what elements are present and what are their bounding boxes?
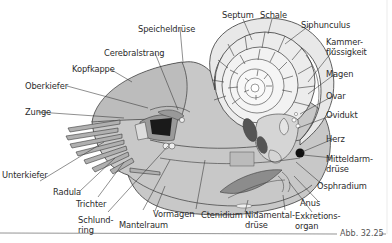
label-mitteldarm-2: drüse [326,164,349,174]
label-septum: Septum [222,10,254,20]
label-siphunculus: Siphunculus [301,20,350,30]
label-speicheldruese: Speicheldrüse [138,24,195,34]
label-mitteldarm-1: Mitteldarm- [326,154,373,164]
label-schlundring-1: Schlund- [78,215,113,225]
label-ovar: Ovar [326,91,346,101]
label-radula: Radula [53,187,81,197]
label-osphradium: Osphradium [317,181,367,191]
label-nidamental-1: Nidamental- [245,210,295,220]
label-unterkiefer: Unterkiefer [2,170,48,180]
label-herz: Herz [326,134,345,144]
label-kammer-1: Kammer- [326,37,363,47]
label-schlundring-2: ring [78,225,94,235]
label-ovidukt: Ovidukt [326,110,358,120]
label-cerebralstrang: Cerebralstrang [104,48,165,58]
label-zunge: Zunge [25,107,51,117]
label-mantelraum: Mantelraum [119,220,168,230]
label-schale: Schale [260,10,287,20]
label-nidamental-2: drüse [245,220,268,230]
label-trichter: Trichter [76,199,106,209]
label-oberkiefer: Oberkiefer [25,81,68,91]
label-exkretion-1: Exkretions- [295,211,340,221]
label-vormagen: Vormagen [153,209,194,219]
label-ctenidium: Ctenidium [201,210,243,220]
label-exkretion-2: organ [295,221,318,231]
label-magen: Magen [326,69,353,79]
label-kammer-2: flüssigkeit [326,47,367,57]
caption-rule [0,233,337,234]
label-kopfkappe: Kopfkappe [72,64,115,74]
label-anus: Anus [300,198,320,208]
figure-caption: Abb. 32.25 [340,229,384,239]
